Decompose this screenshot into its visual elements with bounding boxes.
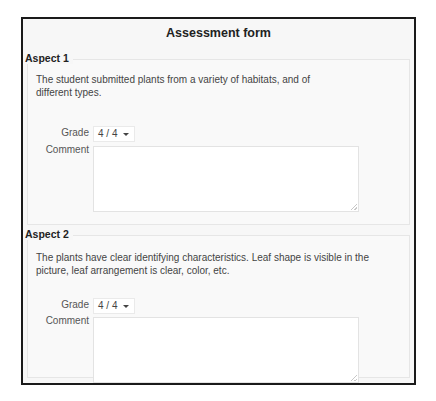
form-title: Assessment form [23, 26, 414, 40]
assessment-form-frame: Assessment form Aspect 1 The student sub… [21, 17, 416, 385]
aspect-section-2: Aspect 2 The plants have clear identifyi… [23, 228, 414, 378]
grade-label: Grade [23, 127, 89, 138]
comment-textarea[interactable] [93, 317, 359, 383]
grade-select[interactable]: 4 / 4 [93, 126, 135, 142]
aspect-section-1: Aspect 1 The student submitted plants fr… [23, 52, 414, 225]
aspect-heading: Aspect 2 [25, 228, 73, 240]
aspect-description: The student submitted plants from a vari… [36, 73, 334, 99]
chevron-down-icon [123, 133, 129, 136]
aspect-description: The plants have clear identifying charac… [36, 251, 398, 277]
grade-select[interactable]: 4 / 4 [93, 298, 135, 314]
grade-label: Grade [23, 299, 89, 310]
grade-value: 4 / 4 [98, 299, 117, 313]
comment-label: Comment [23, 315, 89, 326]
comment-textarea[interactable] [93, 146, 359, 212]
aspect-heading: Aspect 1 [25, 52, 73, 64]
resize-grip-icon[interactable] [351, 375, 357, 381]
chevron-down-icon [123, 305, 129, 308]
grade-value: 4 / 4 [98, 127, 117, 141]
comment-label: Comment [23, 144, 89, 155]
resize-grip-icon[interactable] [351, 204, 357, 210]
